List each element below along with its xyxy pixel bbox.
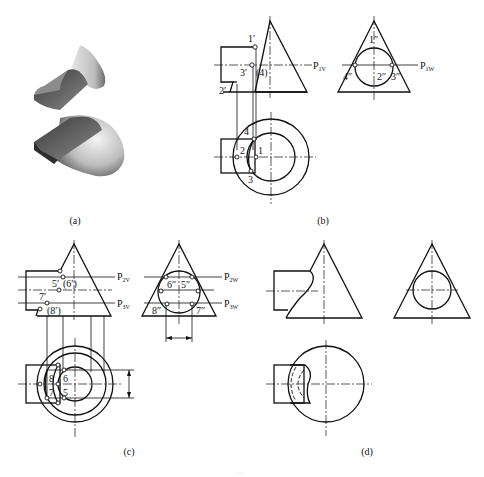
caption-c: (c) <box>123 446 134 458</box>
plane-p2v: P2V <box>117 271 131 283</box>
label-7: 7 <box>49 387 54 398</box>
panel-b-top-view: 4 2 1 3 <box>214 112 316 204</box>
label-5prime: 5′ <box>52 278 59 289</box>
label-4dprime: 4″ <box>343 71 352 82</box>
label-1: 1 <box>258 145 263 156</box>
plane-p2w: P2W <box>224 271 239 283</box>
plane-p3w: P3W <box>224 298 239 310</box>
label-3prime: 3′ <box>240 67 247 78</box>
technical-drawing: (a) 1′ 3′ (4) 2′ P1V 1″ 4″ 2″ 3″ <box>0 0 484 477</box>
panel-c-side-view: 6″ 5″ 8″ 7″ P2W P3W <box>142 240 239 342</box>
label-4: 4 <box>244 126 249 137</box>
label-8dprime: 8″ <box>152 305 161 316</box>
panel-d-side-view <box>394 240 470 326</box>
plane-p1w: P1W <box>420 60 435 72</box>
label-8: 8 <box>49 373 54 384</box>
label-3: 3 <box>248 174 253 185</box>
plane-p1v: P1V <box>313 60 327 72</box>
panel-d-front-view <box>266 240 362 324</box>
panel-a-3d-render <box>34 45 124 176</box>
label-8paren: (8′) <box>47 305 61 317</box>
label-6paren: (6′) <box>63 278 77 290</box>
label-2: 2 <box>240 145 245 156</box>
label-7dprime: 7″ <box>196 305 205 316</box>
panel-c-top-view: 8 6 7 5 <box>18 338 134 438</box>
label-5dprime: 5″ <box>181 279 190 290</box>
figure-caption-faint: … <box>236 466 245 476</box>
label-2prime: 2′ <box>219 85 226 96</box>
label-6: 6 <box>63 373 68 384</box>
label-1prime: 1′ <box>248 33 255 44</box>
label-5: 5 <box>63 387 68 398</box>
caption-d: (d) <box>361 446 373 458</box>
panel-d-top-view <box>266 340 372 436</box>
panel-c-front-view: 5′ (6′) 7′ (8′) P2V P3V <box>18 240 131 397</box>
label-3dprime: 3″ <box>391 71 400 82</box>
panel-b-side-view: 1″ 4″ 2″ 3″ P1W <box>338 16 435 100</box>
panel-b-front-view: 1′ 3′ (4) 2′ P1V <box>214 16 327 150</box>
label-4paren: (4) <box>256 67 268 79</box>
plane-p3v: P3V <box>117 298 131 310</box>
caption-a: (a) <box>69 215 80 227</box>
label-7prime: 7′ <box>39 291 46 302</box>
label-2dprime: 2″ <box>377 71 386 82</box>
label-1dprime: 1″ <box>369 34 378 45</box>
label-6dprime: 6″ <box>167 279 176 290</box>
caption-b: (b) <box>317 215 329 227</box>
